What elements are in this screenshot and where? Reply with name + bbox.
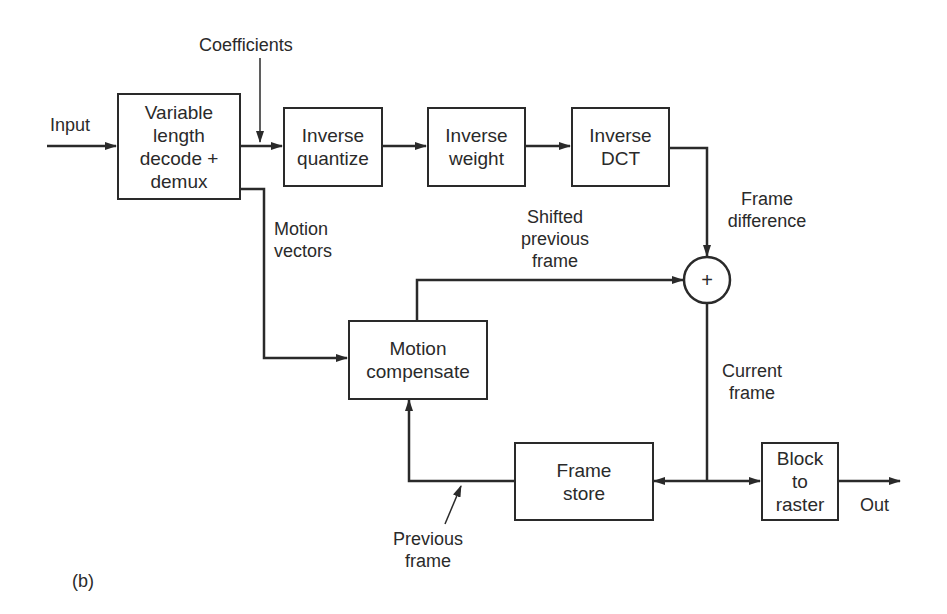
variable-length-decode-demux-block: Variable length decode + demux	[117, 93, 241, 200]
inverse-weight-label: Inverse weight	[445, 124, 507, 170]
summer-plus-icon: +	[701, 269, 713, 291]
vld-label: Variable length decode + demux	[140, 101, 219, 193]
motion-vectors-label: Motion vectors	[274, 218, 332, 262]
block-to-raster-block: Block to raster	[761, 442, 839, 521]
frame-difference-label: Frame difference	[712, 188, 822, 232]
frame-store-label: Frame store	[557, 459, 612, 505]
motion-compensate-label: Motion compensate	[366, 337, 470, 383]
shifted-previous-frame-label: Shifted previous frame	[510, 206, 600, 272]
inverse-quantize-label: Inverse quantize	[297, 124, 369, 170]
inverse-dct-block: Inverse DCT	[571, 107, 670, 187]
block-to-raster-label: Block to raster	[776, 447, 825, 516]
out-label: Out	[860, 494, 889, 516]
inverse-quantize-block: Inverse quantize	[283, 107, 383, 187]
previous-frame-pointer	[445, 486, 461, 524]
previous-frame-label: Previous frame	[378, 528, 478, 572]
motion-compensate-block: Motion compensate	[348, 320, 488, 400]
input-label: Input	[50, 114, 90, 136]
figure-label: (b)	[72, 570, 94, 592]
current-frame-label: Current frame	[712, 360, 792, 404]
shifted-previous-frame-arrow	[417, 280, 683, 320]
frame-store-block: Frame store	[514, 442, 654, 521]
coefficients-label: Coefficients	[199, 34, 293, 56]
previous-frame-arrow	[409, 400, 514, 481]
inverse-dct-label: Inverse DCT	[589, 124, 651, 170]
motion-vectors-arrow	[240, 189, 347, 358]
inverse-weight-block: Inverse weight	[427, 107, 526, 187]
frame-difference-arrow	[669, 148, 707, 256]
